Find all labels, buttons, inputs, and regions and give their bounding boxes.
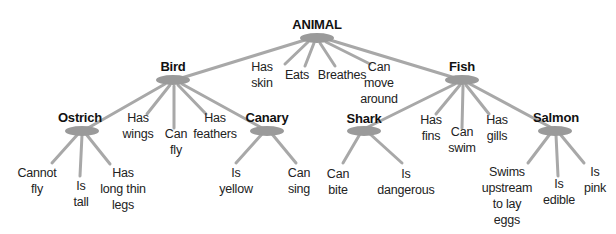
node-salmon-label: Salmon [533, 110, 579, 125]
prop-has-feathers: Has feathers [193, 110, 237, 142]
node-shark-label: Shark [346, 111, 381, 126]
node-canary-label: Canary [246, 110, 289, 125]
prop-is-pink: Is pink [584, 164, 606, 196]
node-salmon-ellipse [538, 126, 572, 136]
node-animal-ellipse [300, 33, 334, 43]
node-ostrich-ellipse [65, 126, 99, 136]
prop-breathes: Breathes [318, 67, 366, 83]
prop-can-swim: Can swim [448, 124, 476, 156]
prop-has-wings: Has wings [123, 110, 154, 142]
prop-can-sing: Can sing [288, 165, 310, 197]
prop-has-gills: Has gills [486, 112, 508, 144]
node-ostrich-label: Ostrich [58, 110, 102, 125]
prop-cannot-fly: Cannot fly [17, 165, 56, 197]
prop-is-edible: Is edible [543, 176, 575, 208]
prop-can-move-around: Can move around [360, 59, 398, 107]
prop-is-yellow: Is yellow [219, 165, 253, 197]
node-bird-ellipse [156, 75, 190, 85]
node-bird-label: Bird [160, 59, 185, 74]
node-canary-ellipse [250, 126, 284, 136]
prop-swims-upstream: Swims upstream to lay eggs [482, 164, 533, 228]
prop-can-fly: Can fly [165, 126, 187, 158]
prop-is-tall: Is tall [73, 178, 88, 210]
prop-has-long-thin-legs: Has long thin legs [100, 165, 145, 213]
prop-can-bite: Can bite [327, 166, 349, 198]
node-fish-ellipse [445, 75, 479, 85]
prop-has-fins: Has fins [420, 112, 442, 144]
node-shark-ellipse [347, 126, 381, 136]
prop-is-dangerous: Is dangerous [377, 166, 434, 198]
prop-has-skin: Has skin [251, 59, 273, 91]
prop-eats: Eats [285, 67, 309, 83]
node-fish-label: Fish [449, 59, 475, 74]
node-animal-label: ANIMAL [292, 17, 341, 32]
